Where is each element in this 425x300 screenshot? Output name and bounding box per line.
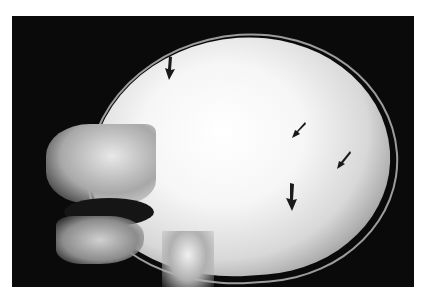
arrow-icon — [337, 151, 351, 169]
cervical-spine — [162, 231, 214, 287]
arrow-icon — [292, 122, 306, 138]
arrow-icon — [285, 183, 299, 211]
radiograph — [12, 16, 414, 287]
arrow-icon — [163, 56, 177, 80]
facial-bones — [46, 124, 156, 204]
mandible — [56, 216, 144, 264]
